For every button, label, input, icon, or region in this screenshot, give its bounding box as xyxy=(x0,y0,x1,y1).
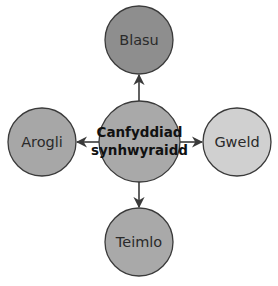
node-blasu-label: Blasu xyxy=(119,32,159,48)
node-gweld: Gweld xyxy=(203,108,271,176)
node-arogli: Arogli xyxy=(8,108,76,176)
node-center: Canfyddiad synhwyraidd xyxy=(91,101,188,182)
sensory-perception-diagram: Blasu Arogli Gweld Teimlo Canfyddiad syn… xyxy=(0,0,278,286)
node-center-label-line1: Canfyddiad xyxy=(96,124,182,140)
node-center-label-line2: synhwyraidd xyxy=(91,142,188,158)
node-arogli-label: Arogli xyxy=(21,134,63,150)
node-gweld-label: Gweld xyxy=(214,134,259,150)
node-teimlo-label: Teimlo xyxy=(115,234,162,250)
node-teimlo: Teimlo xyxy=(105,208,173,276)
node-blasu: Blasu xyxy=(105,6,173,74)
